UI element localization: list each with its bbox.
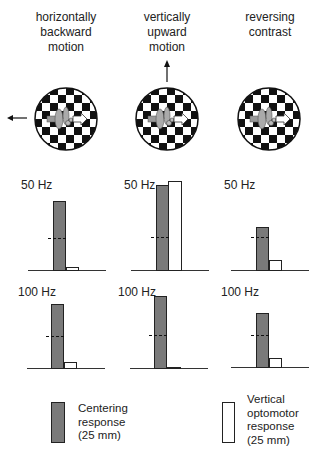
- optomotor-bar: [167, 367, 181, 369]
- centering-bar: [53, 201, 66, 271]
- optomotor-bar: [269, 358, 282, 368]
- optomotor-bar: [66, 267, 79, 271]
- title-line: vertically: [117, 10, 217, 25]
- frequency-label: 50 Hz: [224, 178, 255, 192]
- reference-dashed-line: [151, 237, 169, 238]
- optomotor-bar: [64, 362, 77, 369]
- title-line: contrast: [220, 25, 319, 40]
- legend-line: Vertical: [247, 393, 299, 407]
- optomotor-bar: [269, 260, 282, 271]
- centering-bar: [256, 313, 269, 368]
- legend-line: (25 mm): [78, 429, 128, 443]
- centering-bar: [154, 296, 167, 369]
- checkerboard-fly-icon: [134, 86, 200, 152]
- legend-label-centering: Centering response (25 mm): [78, 402, 128, 443]
- arrow-up-icon: [162, 60, 172, 82]
- legend-line: (25 mm): [247, 434, 299, 448]
- checkerboard-fly-icon: [33, 86, 99, 152]
- title-line: reversing: [220, 10, 319, 25]
- condition-title-vertical: vertically upward motion: [117, 10, 217, 55]
- legend-line: Centering: [78, 402, 128, 416]
- legend-swatch-centering: [51, 402, 65, 443]
- title-line: upward: [117, 25, 217, 40]
- legend-swatch-optomotor: [222, 402, 235, 443]
- arrow-left-icon: [7, 113, 29, 123]
- optomotor-bar: [168, 181, 182, 271]
- legend-line: response: [247, 420, 299, 434]
- checkerboard-fly-icon: [236, 86, 302, 152]
- title-line: motion: [16, 40, 116, 55]
- frequency-label: 50 Hz: [124, 178, 155, 192]
- reference-dashed-line: [48, 238, 66, 239]
- reference-dashed-line: [46, 336, 64, 337]
- legend-line: optomotor: [247, 407, 299, 421]
- reference-dashed-line: [251, 335, 269, 336]
- legend-line: response: [78, 416, 128, 430]
- centering-bar: [256, 227, 269, 271]
- condition-title-horizontal: horizontally backward motion: [16, 10, 116, 55]
- frequency-label: 100 Hz: [221, 285, 259, 299]
- condition-title-reversing: reversing contrast: [220, 10, 319, 40]
- frequency-label: 100 Hz: [118, 285, 156, 299]
- title-line: backward: [16, 25, 116, 40]
- title-line: horizontally: [16, 10, 116, 25]
- reference-dashed-line: [251, 237, 269, 238]
- title-line: motion: [117, 40, 217, 55]
- reference-dashed-line: [149, 335, 167, 336]
- frequency-label: 100 Hz: [18, 285, 56, 299]
- frequency-label: 50 Hz: [21, 178, 52, 192]
- legend-label-optomotor: Vertical optomotor response (25 mm): [247, 393, 299, 447]
